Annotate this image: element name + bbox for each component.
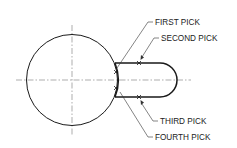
first-pick-label: FIRST PICK (155, 18, 200, 27)
drawing-canvas: FIRST PICK SECOND PICK THIRD PICK FOURTH… (0, 0, 237, 148)
second-pick-label: SECOND PICK (161, 34, 218, 43)
third-pick-leader (142, 104, 158, 121)
first-pick-leader (117, 22, 153, 68)
second-pick-arrow (141, 55, 145, 60)
second-pick-leader (142, 38, 159, 57)
leader-lines (117, 22, 159, 137)
fourth-pick-label: FOURTH PICK (155, 133, 211, 142)
fourth-pick-leader (120, 92, 153, 137)
third-pick-label: THIRD PICK (160, 117, 207, 126)
